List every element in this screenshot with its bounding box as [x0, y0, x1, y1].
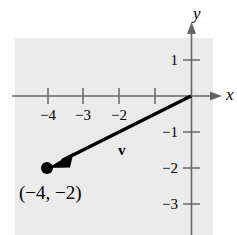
x-axis-label: x	[226, 86, 234, 103]
vector-diagram-figure: y x −4 −3 −2 1 −1 −2 −3 v (−4, −2)	[0, 0, 237, 235]
x-tick-label-minus4: −4	[33, 108, 63, 123]
y-axis-label: y	[193, 5, 201, 22]
y-tick-label-minus1: −1	[148, 125, 178, 140]
x-tick-label-minus2: −2	[104, 108, 134, 123]
terminal-point-dot	[41, 162, 53, 174]
y-tick-label-minus2: −2	[148, 161, 178, 176]
y-tick-label-minus3: −3	[148, 197, 178, 212]
point-coordinate-label: (−4, −2)	[19, 183, 82, 202]
vector-label-v: v	[118, 143, 126, 158]
y-tick-label-1: 1	[148, 53, 178, 68]
x-tick-label-minus3: −3	[68, 108, 98, 123]
y-axis	[187, 22, 196, 235]
